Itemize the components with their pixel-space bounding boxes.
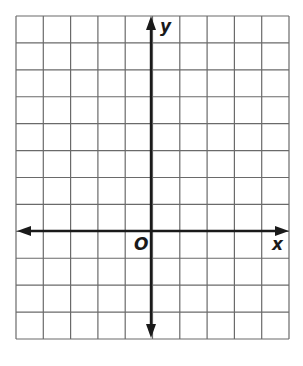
origin-label: O [134,234,148,254]
grid [16,16,289,339]
y-axis-up-arrow-icon [146,16,156,30]
y-axis-down-arrow-icon [146,324,156,338]
x-axis-label: x [271,234,284,254]
coordinate-plane: y x O [0,0,303,366]
x-axis-left-arrow-icon [17,226,31,236]
y-axis-label: y [160,16,172,36]
